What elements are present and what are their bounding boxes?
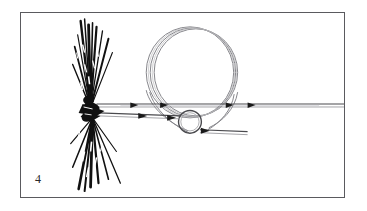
hackle-fibers-lower [71,118,121,191]
fly-tying-illustration [21,13,344,197]
page-root: 4 [0,0,367,211]
loop-leg-right [208,92,238,130]
figure-frame: 4 [20,12,345,198]
small-hook-eye-circle [179,110,202,133]
hackle-fibers-upper [73,19,113,108]
step-number-label: 4 [35,173,41,185]
